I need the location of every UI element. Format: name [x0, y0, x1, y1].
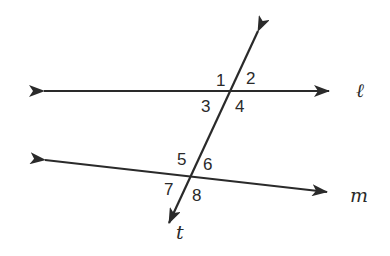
angle-label-2: 2: [246, 69, 255, 88]
transversal-diagram: 1 2 3 4 5 6 7 8 ℓ m t: [0, 0, 390, 256]
line-label-m: m: [350, 184, 368, 206]
angle-label-8: 8: [192, 186, 201, 205]
line-label-l: ℓ: [356, 79, 364, 101]
angle-label-6: 6: [203, 155, 212, 174]
angle-label-1: 1: [216, 71, 225, 90]
diagram-svg: 1 2 3 4 5 6 7 8 ℓ m t: [0, 0, 390, 256]
angle-label-4: 4: [235, 97, 244, 116]
line-label-t: t: [176, 221, 184, 243]
angle-label-7: 7: [164, 180, 173, 199]
angle-label-5: 5: [177, 150, 186, 169]
line-t: [169, 31, 258, 223]
angle-label-3: 3: [201, 97, 210, 116]
